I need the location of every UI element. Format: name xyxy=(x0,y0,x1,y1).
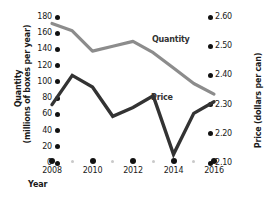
line-chart: Quantity (millions of boxes per year) 18… xyxy=(0,0,269,200)
series-label-quantity: Quantity xyxy=(152,35,190,44)
series-label-price: Price xyxy=(151,93,173,102)
plot-area xyxy=(0,0,269,200)
series-line-price xyxy=(52,75,214,154)
